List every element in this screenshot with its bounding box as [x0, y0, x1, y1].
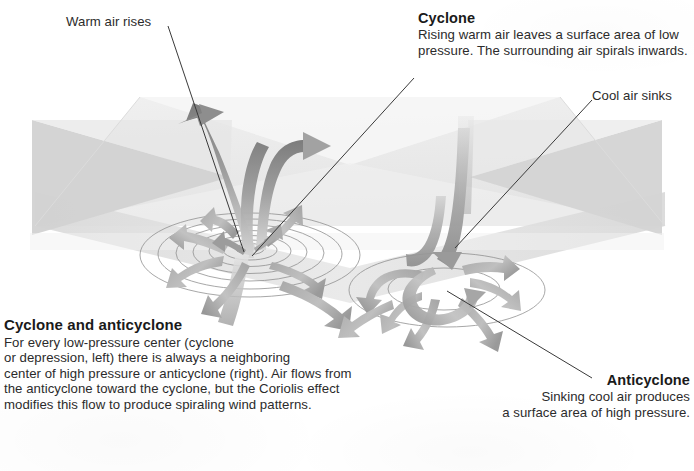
label-cool-air-sinks: Cool air sinks: [592, 88, 672, 104]
caption-heading: Cyclone and anticyclone: [4, 316, 354, 334]
label-cyclone: Cyclone Rising warm air leaves a surface…: [418, 10, 690, 58]
label-warm-air-rises: Warm air rises: [66, 14, 151, 30]
label-warm-air-text: Warm air rises: [66, 14, 151, 30]
caption-body-line-5: modifies this flow to produce spiraling …: [4, 397, 354, 413]
atmosphere-slab: [30, 97, 665, 303]
label-cyclone-body-line-2: pressure. The surrounding air spirals in…: [418, 43, 690, 59]
label-cyclone-heading: Cyclone: [418, 10, 690, 27]
caption-block: Cyclone and anticyclone For every low-pr…: [4, 316, 354, 413]
label-cool-air-text: Cool air sinks: [592, 88, 672, 104]
label-cyclone-body-line-1: Rising warm air leaves a surface area of…: [418, 27, 690, 43]
caption-body-line-3: center of high pressure or anticyclone (…: [4, 366, 354, 382]
caption-body-line-2: or depression, left) there is always a n…: [4, 350, 354, 366]
label-anticyclone-heading: Anticyclone: [448, 372, 690, 389]
caption-body-line-1: For every low-pressure center (cyclone: [4, 335, 354, 351]
label-anticyclone-body-line-1: Sinking cool air produces: [448, 389, 690, 405]
label-anticyclone: Anticyclone Sinking cool air produces a …: [448, 372, 690, 420]
diagram-canvas: Warm air rises Cyclone Rising warm air l…: [0, 0, 694, 471]
label-anticyclone-body-line-2: a surface area of high pressure.: [448, 405, 690, 421]
caption-body-line-4: the anticyclone toward the cyclone, but …: [4, 381, 354, 397]
